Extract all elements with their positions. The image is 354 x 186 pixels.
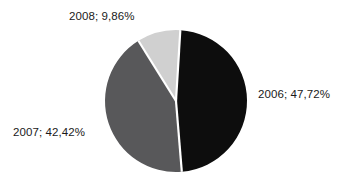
pie-label-2006: 2006; 47,72% xyxy=(258,87,330,101)
pie-label-2008: 2008; 9,86% xyxy=(69,9,135,23)
pie-chart-figure: 2008; 9,86% 2006; 47,72% 2007; 42,42% xyxy=(0,0,354,186)
pie-slice-2006[interactable] xyxy=(176,30,247,172)
pie-label-2007: 2007; 42,42% xyxy=(13,125,85,139)
